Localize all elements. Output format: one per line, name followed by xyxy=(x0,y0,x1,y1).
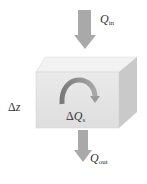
q-in-subscript: in xyxy=(109,19,114,27)
delta-z-symbol: z xyxy=(16,100,21,114)
q-in-label: Qin xyxy=(100,13,114,27)
diagram-canvas xyxy=(0,0,147,184)
q-out-label: Qout xyxy=(90,152,108,166)
delta-z-label: Δz xyxy=(8,101,20,113)
delta-qs-delta: Δ xyxy=(66,109,74,123)
delta-z-delta: Δ xyxy=(8,100,16,114)
q-in-symbol: Q xyxy=(100,12,109,26)
inflow-arrow-icon xyxy=(74,10,96,49)
q-out-subscript: out xyxy=(99,158,108,166)
control-volume-box xyxy=(36,57,137,128)
delta-qs-label: ΔQs xyxy=(66,110,85,124)
delta-qs-subscript: s xyxy=(82,116,85,124)
q-out-symbol: Q xyxy=(90,151,99,165)
